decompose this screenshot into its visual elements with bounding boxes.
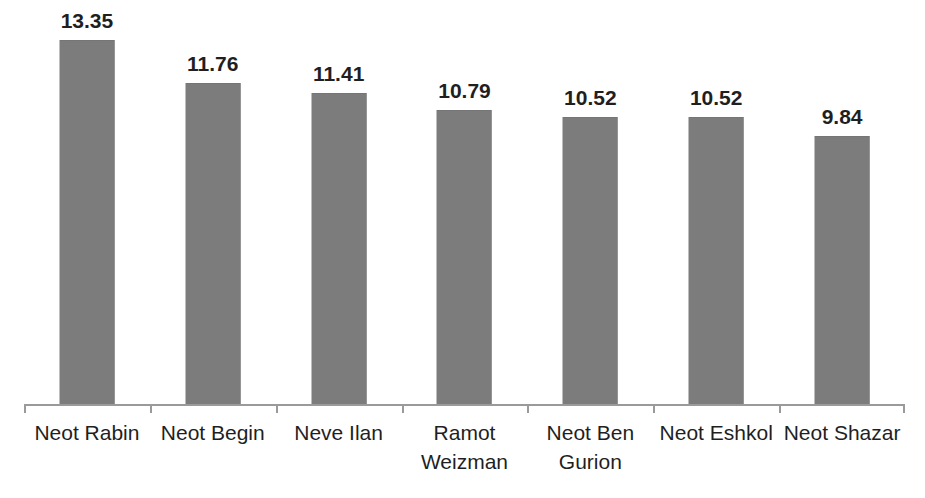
bar[interactable] [815, 136, 870, 405]
category-label-line: Neot Begin [150, 418, 276, 447]
bar[interactable] [689, 117, 744, 405]
axis-tick [779, 404, 781, 413]
category-label: Neot Shazar [779, 418, 905, 447]
plot-area: 13.3511.7611.4110.7910.5210.529.84 [24, 8, 905, 405]
category-label-line: Neot Rabin [24, 418, 150, 447]
bar-value-label: 11.76 [187, 52, 238, 76]
bar[interactable] [563, 117, 618, 405]
axis-tick [903, 404, 905, 413]
category-label-line: Weizman [402, 447, 528, 476]
category-label-line: Neve Ilan [276, 418, 402, 447]
bar-group: 10.52 [653, 8, 779, 405]
bar[interactable] [437, 110, 492, 405]
category-label: Neot Begin [150, 418, 276, 447]
bar-group: 13.35 [24, 8, 150, 405]
bar[interactable] [185, 83, 240, 405]
category-label-line: Neot Shazar [779, 418, 905, 447]
axis-tick [276, 404, 278, 413]
bar-group: 10.52 [527, 8, 653, 405]
bar-value-label: 10.52 [690, 86, 743, 110]
bar-value-label: 9.84 [822, 105, 863, 129]
category-label-line: Ramot [402, 418, 528, 447]
category-label: Neot Eshkol [653, 418, 779, 447]
x-axis-line [24, 404, 905, 406]
bar-value-label: 10.52 [564, 86, 617, 110]
axis-tick [150, 404, 152, 413]
bar-group: 9.84 [779, 8, 905, 405]
category-label-line: Neot Eshkol [653, 418, 779, 447]
bar-value-label: 11.41 [313, 62, 364, 86]
bar-value-label: 10.79 [438, 79, 491, 103]
axis-tick [653, 404, 655, 413]
category-label: Neot Rabin [24, 418, 150, 447]
category-label: Neve Ilan [276, 418, 402, 447]
bar-chart: 13.3511.7611.4110.7910.5210.529.84 Neot … [0, 0, 925, 498]
bar-group: 11.41 [276, 8, 402, 405]
axis-tick [527, 404, 529, 413]
axis-tick [402, 404, 404, 413]
bar-value-label: 13.35 [61, 9, 114, 33]
bar-group: 10.79 [402, 8, 528, 405]
axis-tick [24, 404, 26, 413]
category-label-line: Gurion [527, 447, 653, 476]
category-axis-labels: Neot RabinNeot BeginNeve IlanRamotWeizma… [24, 418, 905, 488]
bar-group: 11.76 [150, 8, 276, 405]
bar[interactable] [311, 93, 366, 405]
category-label: RamotWeizman [402, 418, 528, 476]
bar[interactable] [59, 40, 114, 406]
category-label-line: Neot Ben [527, 418, 653, 447]
category-label: Neot BenGurion [527, 418, 653, 476]
